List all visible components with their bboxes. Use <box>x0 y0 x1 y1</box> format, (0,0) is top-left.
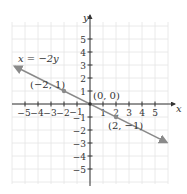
x-tick-label: 3 <box>126 108 132 118</box>
point-label: (0, 0) <box>93 90 120 101</box>
y-tick-label: −4 <box>73 152 87 162</box>
x-axis-label: x <box>176 103 182 114</box>
point-label: (2, −1) <box>108 120 143 131</box>
x-tick-label: −5 <box>17 108 31 118</box>
y-tick-label: 1 <box>80 87 86 97</box>
x-tick-label: 5 <box>152 108 158 118</box>
y-tick-label: 4 <box>80 48 86 58</box>
equation-label: x = −2y <box>18 53 59 64</box>
y-axis-label: y <box>82 12 89 23</box>
point-label: (−2, 1) <box>30 79 65 90</box>
data-point-origin <box>88 102 92 106</box>
coordinate-plane-chart: −5−4−3−2−112345−5−4−3−2−112345 xyx = −2y… <box>0 0 187 194</box>
x-tick-label: −4 <box>30 108 44 118</box>
x-tick-label: 4 <box>139 108 145 118</box>
y-tick-label: −3 <box>73 139 87 149</box>
x-tick-label: −3 <box>43 108 57 118</box>
y-tick-label: 3 <box>80 61 86 71</box>
y-tick-label: −2 <box>73 126 86 136</box>
y-tick-label: −5 <box>73 165 87 175</box>
y-tick-label: −1 <box>73 113 86 123</box>
y-tick-label: 2 <box>80 74 86 84</box>
y-tick-label: 5 <box>80 35 86 45</box>
data-point <box>114 115 118 119</box>
x-tick-label: −2 <box>56 108 69 118</box>
